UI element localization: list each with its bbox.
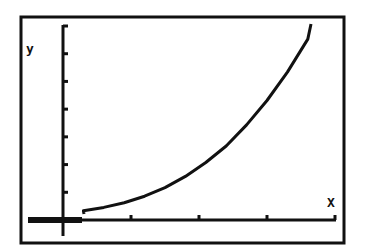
- x-axis-label: X: [327, 196, 335, 209]
- plot-area: [0, 0, 365, 252]
- function-curve: [83, 24, 311, 214]
- y-axis-label: y: [26, 42, 34, 55]
- graph-screen: y X: [0, 0, 365, 252]
- axes: [28, 25, 336, 236]
- axis-ticks: [63, 26, 335, 220]
- plot-frame: [21, 17, 344, 243]
